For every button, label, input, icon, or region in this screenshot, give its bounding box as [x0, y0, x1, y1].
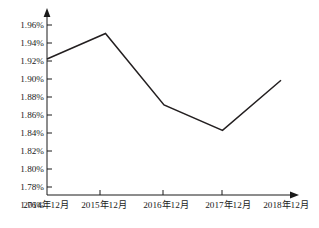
y-tick-label: 1.94%: [20, 38, 44, 48]
x-tick-label: 2018年12月: [263, 199, 309, 210]
chart-canvas: 1.96% 1.94% 1.92% 1.90% 1.88% 1.86% 1.84…: [0, 0, 319, 228]
y-tick-label: 1.78%: [20, 182, 44, 192]
y-tick-label: 1.84%: [20, 128, 44, 138]
y-tick-label: 1.86%: [20, 110, 44, 120]
y-tick-label: 1.96%: [20, 20, 44, 30]
y-tick-label: 1.88%: [20, 92, 44, 102]
x-tick-label: 2014年12月: [23, 199, 69, 210]
series-line-path: [47, 34, 281, 131]
y-tick-label: 1.80%: [20, 164, 44, 174]
x-tick-label: 2015年12月: [81, 199, 127, 210]
axis-arrow-up-icon: [44, 8, 51, 17]
x-tick-label: 2017年12月: [205, 199, 251, 210]
axis-arrow-right-icon: [290, 192, 299, 199]
x-axis-tick-labels: 2014年12月 2015年12月 2016年12月 2017年12月 2018…: [23, 199, 309, 210]
y-tick-label: 1.82%: [20, 146, 44, 156]
y-tick-label: 1.90%: [20, 74, 44, 84]
y-axis-tick-labels: 1.96% 1.94% 1.92% 1.90% 1.88% 1.86% 1.84…: [20, 20, 44, 210]
y-tick-label: 1.92%: [20, 56, 44, 66]
x-axis-tick-marks: [100, 190, 222, 195]
x-tick-label: 2016年12月: [143, 199, 189, 210]
line-chart: 1.96% 1.94% 1.92% 1.90% 1.88% 1.86% 1.84…: [0, 0, 319, 228]
y-axis-tick-marks: [47, 25, 52, 187]
